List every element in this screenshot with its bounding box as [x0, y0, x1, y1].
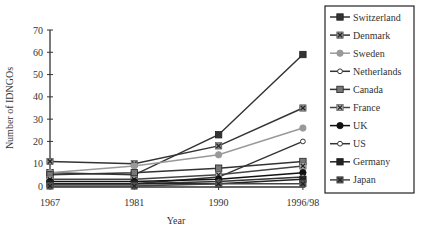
y-tick-label: 10	[33, 158, 43, 169]
y-tick-label: 40	[33, 91, 43, 102]
legend-label: US	[353, 138, 366, 149]
y-axis-label: Number of IDNGOs	[4, 67, 15, 149]
legend-label: Japan	[353, 174, 376, 185]
x-tick-label: 1981	[124, 197, 144, 208]
x-tick-label: 1967	[40, 197, 60, 208]
legend-label: Denmark	[353, 30, 390, 41]
x-axis-label: Year	[167, 215, 186, 226]
legend-label: Netherlands	[353, 66, 401, 77]
legend-label: Switzerland	[353, 12, 401, 23]
series-layer	[47, 51, 306, 189]
legend-label: Sweden	[353, 48, 385, 59]
series-denmark	[47, 105, 306, 167]
series-sweden	[47, 125, 306, 176]
legend-label: UK	[353, 120, 368, 131]
x-tick-label: 1990	[209, 197, 229, 208]
y-tick-label: 60	[33, 47, 43, 58]
y-tick-label: 50	[33, 69, 43, 80]
series-switzerland	[47, 51, 306, 178]
y-tick-label: 70	[33, 25, 43, 36]
chart-canvas: 0102030405060701967198119901996/98 Numbe…	[0, 0, 423, 241]
legend-label: Canada	[353, 84, 384, 95]
legend-label: France	[353, 102, 381, 113]
y-tick-label: 20	[33, 136, 43, 147]
legend-label: Germany	[353, 156, 390, 167]
x-tick-label: 1996/98	[287, 197, 320, 208]
y-tick-label: 0	[38, 181, 43, 192]
legend: SwitzerlandDenmarkSwedenNetherlandsCanad…	[325, 6, 414, 193]
y-tick-label: 30	[33, 114, 43, 125]
line-chart: 0102030405060701967198119901996/98 Numbe…	[0, 0, 423, 241]
